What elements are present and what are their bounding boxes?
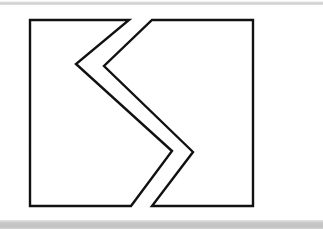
- geometric-figure: [0, 0, 323, 229]
- bottom-scan-band: [0, 220, 323, 229]
- figure-canvas: [0, 0, 323, 229]
